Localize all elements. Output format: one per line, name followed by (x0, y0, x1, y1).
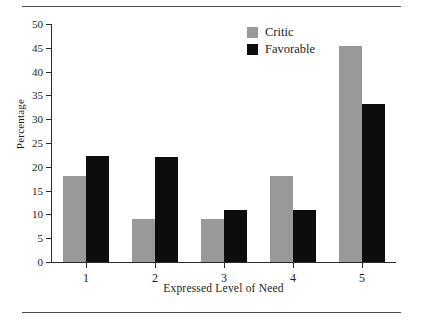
bar-favorable-1 (86, 156, 109, 262)
chart-legend: CriticFavorable (247, 24, 315, 58)
legend-swatch-icon (247, 27, 258, 38)
y-axis-tick-label: 20 (17, 161, 43, 173)
y-axis-tick (46, 48, 51, 49)
y-axis-tick-label: 0 (17, 256, 43, 268)
x-axis-title: Expressed Level of Need (51, 282, 396, 294)
legend-item-critic: Critic (247, 24, 315, 41)
bar-favorable-4 (293, 210, 316, 262)
bar-favorable-3 (224, 210, 247, 262)
page-rule-bottom (22, 312, 401, 313)
y-axis-tick-label: 50 (17, 18, 43, 30)
legend-swatch-icon (247, 44, 258, 55)
bar-favorable-2 (155, 157, 178, 262)
bar-critic-3 (201, 219, 224, 262)
bar-chart-figure: Percentage 05101520253035404550 12345 Ex… (0, 10, 423, 306)
y-axis-tick-label: 45 (17, 42, 43, 54)
x-axis-tick (155, 263, 156, 268)
y-axis-tick (46, 262, 51, 263)
y-axis-line (51, 24, 52, 263)
bar-critic-5 (339, 46, 362, 262)
y-axis-tick (46, 24, 51, 25)
bar-favorable-5 (362, 104, 385, 262)
y-axis-tick (46, 72, 51, 73)
y-axis-tick (46, 238, 51, 239)
y-axis-tick (46, 143, 51, 144)
legend-label: Favorable (265, 42, 315, 57)
legend-label: Critic (265, 25, 293, 40)
bar-critic-2 (132, 219, 155, 262)
y-axis-tick-label: 5 (17, 232, 43, 244)
y-axis-tick (46, 119, 51, 120)
y-axis-tick-label: 30 (17, 113, 43, 125)
y-axis-tick-label: 15 (17, 185, 43, 197)
bar-critic-1 (63, 176, 86, 262)
y-axis-tick-label: 10 (17, 208, 43, 220)
bar-critic-4 (270, 176, 293, 262)
x-axis-tick (293, 263, 294, 268)
x-axis-tick (362, 263, 363, 268)
plot-area: 05101520253035404550 12345 (51, 24, 396, 262)
y-axis-tick (46, 167, 51, 168)
y-axis-tick (46, 95, 51, 96)
y-axis-tick-label: 40 (17, 66, 43, 78)
legend-item-favorable: Favorable (247, 41, 315, 58)
page-rule-top (22, 6, 401, 7)
x-axis-tick (86, 263, 87, 268)
y-axis-tick (46, 214, 51, 215)
y-axis-tick-label: 35 (17, 89, 43, 101)
y-axis-tick-label: 25 (17, 137, 43, 149)
x-axis-tick (224, 263, 225, 268)
y-axis-tick (46, 191, 51, 192)
